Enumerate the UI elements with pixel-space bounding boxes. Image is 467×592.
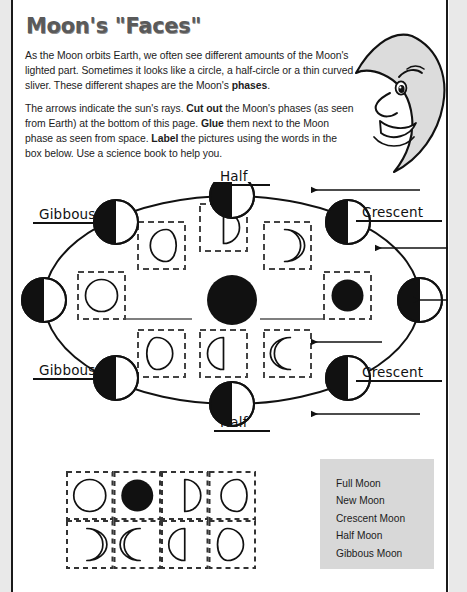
label-crescent-lower-underline	[356, 380, 442, 382]
cut-card-full-moon[interactable]	[67, 472, 113, 519]
cut-card-gibbous-left[interactable]	[210, 472, 256, 519]
body-text: The arrows indicate the sun's rays.	[25, 103, 186, 114]
cut-card-crescent-right[interactable]	[67, 521, 113, 568]
intro-paragraph-2: The arrows indicate the sun's rays. Cut …	[25, 101, 355, 161]
label-gibbous-upper-left: Gibbous	[33, 206, 111, 224]
worksheet-page: Moon's "Faces" As the Moon orbits Earth,…	[0, 0, 467, 592]
label-half-bottom-text: Half	[214, 414, 254, 430]
cut-card-gibbous-right[interactable]	[210, 521, 256, 568]
emphasis-text: phases	[232, 80, 268, 91]
earth-center	[207, 275, 257, 325]
moon-position-left	[22, 278, 66, 322]
label-gibbous-upper-left-underline	[33, 222, 111, 224]
word-bank-item: Full Moon	[336, 475, 434, 492]
answer-box-gibbous-waxing[interactable]	[138, 330, 185, 377]
label-crescent-lower: Crescent	[356, 364, 442, 382]
crescent-moon-face-icon	[350, 33, 448, 178]
cut-card-half-left[interactable]	[162, 521, 208, 568]
word-bank-item: Gibbous Moon	[336, 545, 434, 562]
moon-position-top	[210, 182, 254, 218]
label-half-bottom: Half	[214, 414, 270, 432]
answer-box-half-waxing[interactable]	[200, 330, 247, 377]
word-bank-item: Crescent Moon	[336, 510, 434, 527]
answer-box-full-moon[interactable]	[78, 272, 125, 319]
emphasis-text: Label	[151, 133, 178, 144]
label-crescent-upper-text: Crescent	[356, 204, 429, 220]
answer-box-crescent-waning[interactable]	[264, 222, 311, 269]
label-gibbous-lower-left-text: Gibbous	[33, 362, 102, 378]
page-right-gutter	[449, 0, 467, 592]
label-half-bottom-underline	[214, 430, 270, 432]
page-left-border	[11, 0, 13, 592]
new-moon-filled-glyph	[332, 280, 364, 312]
label-gibbous-upper-left-text: Gibbous	[33, 206, 102, 222]
emphasis-text: Cut out	[186, 103, 222, 114]
label-gibbous-lower-left-underline	[33, 378, 111, 380]
intro-paragraph-1: As the Moon orbits Earth, we often see d…	[25, 48, 355, 93]
cut-out-phase-cards	[66, 471, 256, 569]
label-crescent-upper-underline	[356, 220, 442, 222]
page-left-gutter	[0, 0, 11, 592]
word-bank-item: Half Moon	[336, 527, 434, 544]
cut-card-new-moon[interactable]	[115, 472, 161, 519]
body-text: As the Moon orbits Earth, we often see d…	[25, 50, 353, 91]
answer-box-new-moon[interactable]	[324, 272, 371, 319]
label-half-top-underline	[214, 184, 270, 186]
word-bank-item: New Moon	[336, 492, 434, 509]
label-crescent-upper: Crescent	[356, 204, 442, 222]
cut-card-half-right[interactable]	[162, 472, 208, 519]
answer-box-gibbous-waning[interactable]	[138, 222, 185, 269]
label-gibbous-lower-left: Gibbous	[33, 362, 111, 380]
word-bank: Full MoonNew MoonCrescent MoonHalf MoonG…	[320, 459, 434, 569]
emphasis-text: Glue	[201, 118, 224, 129]
cut-card-crescent-left[interactable]	[115, 521, 161, 568]
answer-box-crescent-waxing[interactable]	[264, 330, 311, 377]
label-half-top-text: Half	[214, 168, 254, 184]
label-crescent-lower-text: Crescent	[356, 364, 429, 380]
label-half-top: Half	[214, 168, 270, 186]
page-title: Moon's "Faces"	[26, 14, 201, 38]
body-text: .	[267, 80, 270, 91]
new-moon-filled-glyph	[121, 480, 153, 512]
moon-phases-orbit-diagram: HalfGibbousGibbousCrescentCrescentHalf	[16, 182, 448, 444]
